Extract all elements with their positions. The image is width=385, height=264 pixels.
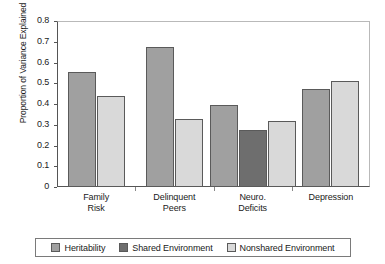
x-axis-category-label: Neuro.Deficits — [214, 192, 292, 214]
bar — [210, 105, 238, 187]
legend-item: Shared Environment — [119, 243, 212, 253]
y-axis-tick-label: 0.1 — [37, 160, 49, 170]
bar — [239, 130, 267, 187]
chart-legend: HeritabilityShared EnvironmentNonshared … — [35, 238, 351, 257]
y-axis-tick-label: 0.2 — [37, 140, 49, 150]
y-axis-tick-label: 0.7 — [37, 36, 49, 46]
x-axis-category-label: FamilyRisk — [57, 192, 135, 214]
bar — [302, 89, 330, 187]
y-axis-tick-label: 0.5 — [37, 77, 49, 87]
legend-swatch-icon — [227, 243, 236, 252]
x-axis-category-label-line: Deficits — [214, 203, 292, 214]
bar — [68, 72, 96, 187]
bar — [97, 96, 125, 187]
x-axis-category-label-line: Depression — [292, 192, 370, 203]
y-axis-tick-mark — [54, 187, 57, 188]
x-axis-category-label: DelinquentPeers — [135, 192, 213, 214]
legend-swatch-icon — [51, 243, 60, 252]
legend-item-label: Shared Environment — [132, 243, 212, 253]
y-axis-tick-label: 0.8 — [37, 15, 49, 25]
legend-item-label: Heritability — [64, 243, 105, 253]
legend-item-label: Nonshared Environment — [240, 243, 335, 253]
x-axis-category-label-line: Risk — [57, 203, 135, 214]
legend-swatch-icon — [119, 243, 128, 252]
bars-layer — [57, 21, 370, 187]
y-axis-tick-label: 0.3 — [37, 119, 49, 129]
bar — [268, 121, 296, 187]
x-axis-category-label: Depression — [292, 192, 370, 203]
bar — [331, 81, 359, 187]
legend-item: Heritability — [51, 243, 105, 253]
x-axis-category-label-line: Peers — [135, 203, 213, 214]
legend-item: Nonshared Environment — [227, 243, 335, 253]
y-axis-tick-label: 0 — [44, 181, 49, 191]
bar-chart-figure: Proportion of Variance Explained 00.10.2… — [0, 0, 385, 264]
x-axis-category-label-line: Neuro. — [214, 192, 292, 203]
y-axis-title: Proportion of Variance Explained — [18, 0, 28, 148]
y-axis-tick-label: 0.6 — [37, 57, 49, 67]
x-axis-category-label-line: Family — [57, 192, 135, 203]
bar — [175, 119, 203, 187]
x-axis-tick-mark — [214, 187, 215, 191]
bar — [146, 47, 174, 187]
x-axis-tick-mark — [292, 187, 293, 191]
y-axis-tick-label: 0.4 — [37, 98, 49, 108]
x-axis-tick-mark — [135, 187, 136, 191]
x-axis-category-label-line: Delinquent — [135, 192, 213, 203]
